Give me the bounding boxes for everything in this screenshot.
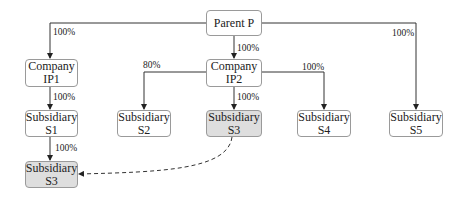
node-label-line2: S3 <box>228 124 241 137</box>
edge-dashed-s3-link <box>79 137 232 174</box>
node-label-line1: Subsidiary <box>118 111 169 124</box>
node-label-line2: IP2 <box>226 73 243 86</box>
edge-label-ip2-s4: 100% <box>302 62 324 72</box>
edge-ip2-s2 <box>144 72 206 109</box>
node-subsidiary-s3-highlighted: Subsidiary S3 <box>206 110 262 137</box>
node-subsidiary-s1: Subsidiary S1 <box>25 110 78 137</box>
node-label-line2: S1 <box>45 124 58 137</box>
node-label-line2: S3 <box>45 175 58 188</box>
edge-label-ip1-s1: 100% <box>53 92 75 102</box>
edge-label-parent-ip2: 100% <box>237 43 259 53</box>
ownership-diagram: 100% 100% 100% 100% 80% 100% 100% 100% P… <box>0 0 464 201</box>
node-label-line1: Subsidiary <box>298 111 349 124</box>
edge-label-s1-s3: 100% <box>55 143 77 153</box>
node-subsidiary-s2: Subsidiary S2 <box>117 110 171 137</box>
edge-label-parent-ip1: 100% <box>53 27 75 37</box>
node-label-line2: S4 <box>318 124 331 137</box>
node-label-line2: S5 <box>410 124 423 137</box>
node-subsidiary-s5: Subsidiary S5 <box>389 110 443 137</box>
node-label-line1: Subsidiary <box>26 111 77 124</box>
node-label-line1: Subsidiary <box>390 111 441 124</box>
edge-ip2-s4 <box>262 72 324 109</box>
edge-label-ip2-s3: 100% <box>237 92 259 102</box>
node-label-line1: Subsidiary <box>208 111 259 124</box>
node-company-ip2: Company IP2 <box>206 59 262 87</box>
node-label-line2: S2 <box>138 124 151 137</box>
node-subsidiary-s3-via-ip1: Subsidiary S3 <box>25 161 78 188</box>
edge-label-ip2-s2: 80% <box>143 60 160 70</box>
node-subsidiary-s4: Subsidiary S4 <box>297 110 351 137</box>
node-parent-p: Parent P <box>206 10 262 36</box>
node-label-line1: Subsidiary <box>26 162 77 175</box>
edge-label-parent-s5: 100% <box>392 28 414 38</box>
node-label-line2: IP1 <box>43 73 60 86</box>
node-company-ip1: Company IP1 <box>25 59 78 87</box>
node-label: Parent P <box>214 17 254 30</box>
